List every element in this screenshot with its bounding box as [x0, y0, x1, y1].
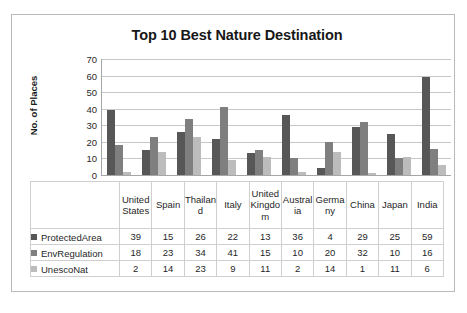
- data-value-cell: 11: [249, 261, 281, 277]
- bar: [185, 119, 193, 175]
- y-axis-tick-label: 70: [75, 54, 97, 65]
- bar-group: [172, 59, 207, 175]
- data-value-cell: 14: [152, 261, 184, 277]
- y-axis-tick-label: 60: [75, 70, 97, 81]
- chart-title: Top 10 Best Nature Destination: [72, 27, 402, 43]
- data-value-cell: 25: [379, 229, 411, 245]
- data-value-cell: 23: [152, 245, 184, 261]
- data-value-cell: 4: [314, 229, 346, 245]
- bar-group: [102, 59, 137, 175]
- y-axis-tick-label: 20: [75, 136, 97, 147]
- data-value-cell: 11: [379, 261, 411, 277]
- data-value-cell: 16: [411, 245, 443, 261]
- bar: [115, 145, 123, 175]
- bar: [282, 115, 290, 175]
- y-axis-tick-label: 0: [75, 170, 97, 181]
- category-header-cell: China: [346, 182, 378, 229]
- bar: [290, 158, 298, 175]
- table-row: EnvRegulation18233441151020321016: [31, 245, 444, 261]
- bar: [150, 137, 158, 175]
- bar: [368, 173, 376, 175]
- data-value-cell: 6: [411, 261, 443, 277]
- y-axis-tick-label: 30: [75, 120, 97, 131]
- data-value-cell: 29: [346, 229, 378, 245]
- bar: [352, 127, 360, 175]
- y-axis-title: No. of Places: [28, 66, 39, 146]
- bar: [430, 149, 438, 176]
- table-row: United StatesSpainThailandItalyUnited Ki…: [31, 182, 444, 229]
- data-value-cell: 34: [184, 245, 216, 261]
- category-header-cell: United States: [120, 182, 152, 229]
- data-value-cell: 2: [281, 261, 313, 277]
- table-row: ProtectedArea3915262213364292559: [31, 229, 444, 245]
- bar: [177, 132, 185, 175]
- legend-label: EnvRegulation: [41, 247, 103, 258]
- bar-group: [311, 59, 346, 175]
- bar: [325, 142, 333, 175]
- legend-label: UnescoNat: [41, 263, 88, 274]
- data-value-cell: 22: [217, 229, 249, 245]
- bar: [422, 77, 430, 175]
- bar: [212, 139, 220, 175]
- bar: [438, 165, 446, 175]
- data-value-cell: 41: [217, 245, 249, 261]
- data-value-cell: 13: [249, 229, 281, 245]
- bar: [360, 122, 368, 175]
- data-value-cell: 15: [249, 245, 281, 261]
- bar-group: [346, 59, 381, 175]
- data-value-cell: 26: [184, 229, 216, 245]
- bar: [333, 152, 341, 175]
- y-axis-tick-label: 50: [75, 87, 97, 98]
- y-axis-tick-labels: 706050403020100: [75, 59, 97, 175]
- bar: [263, 157, 271, 175]
- chart-container: Top 10 Best Nature Destination No. of Pl…: [11, 14, 455, 292]
- legend-swatch-icon: [31, 266, 37, 272]
- data-value-cell: 9: [217, 261, 249, 277]
- table-row: UnescoNat214239112141116: [31, 261, 444, 277]
- category-header-cell: Italy: [217, 182, 249, 229]
- category-header-cell: United Kingdom: [249, 182, 281, 229]
- data-value-cell: 39: [120, 229, 152, 245]
- y-axis-tick-label: 40: [75, 103, 97, 114]
- data-value-cell: 20: [314, 245, 346, 261]
- bar: [107, 110, 115, 175]
- bar: [395, 158, 403, 175]
- data-value-cell: 15: [152, 229, 184, 245]
- data-value-cell: 10: [281, 245, 313, 261]
- plot-area: [101, 59, 451, 176]
- data-value-cell: 14: [314, 261, 346, 277]
- bar: [193, 137, 201, 175]
- bar-group: [381, 59, 416, 175]
- bar: [142, 150, 150, 175]
- legend-cell: EnvRegulation: [31, 245, 120, 261]
- legend-swatch-icon: [31, 250, 37, 256]
- bar: [387, 134, 395, 175]
- bar: [403, 157, 411, 175]
- legend-label: ProtectedArea: [41, 231, 102, 242]
- bar: [220, 107, 228, 175]
- category-header-cell: Thailand: [184, 182, 216, 229]
- bar: [247, 153, 255, 175]
- bar: [123, 172, 131, 175]
- category-header-cell: Spain: [152, 182, 184, 229]
- bar: [158, 152, 166, 175]
- legend-swatch-icon: [31, 234, 37, 240]
- table-corner-cell: [31, 182, 120, 229]
- legend-cell: ProtectedArea: [31, 229, 120, 245]
- bar: [255, 150, 263, 175]
- data-value-cell: 59: [411, 229, 443, 245]
- bar-group: [137, 59, 172, 175]
- bar-group: [207, 59, 242, 175]
- category-header-cell: Germany: [314, 182, 346, 229]
- bar: [317, 168, 325, 175]
- bar-group: [416, 59, 451, 175]
- bars-layer: [102, 59, 451, 175]
- data-table: United StatesSpainThailandItalyUnited Ki…: [30, 181, 444, 277]
- data-value-cell: 2: [120, 261, 152, 277]
- bar-group: [277, 59, 312, 175]
- category-header-cell: Japan: [379, 182, 411, 229]
- bar: [228, 160, 236, 175]
- data-value-cell: 36: [281, 229, 313, 245]
- data-value-cell: 32: [346, 245, 378, 261]
- bar: [298, 172, 306, 175]
